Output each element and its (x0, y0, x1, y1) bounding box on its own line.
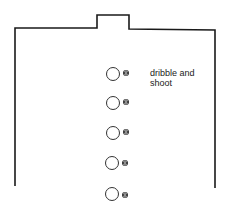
basketball-icon (123, 70, 129, 76)
court-diagram (0, 0, 227, 213)
player-circle (107, 68, 120, 81)
basketball-icon (123, 99, 129, 105)
court-outline (15, 15, 215, 188)
player-circle (107, 127, 120, 140)
player-circle (107, 97, 120, 110)
player-circle (106, 188, 119, 201)
basketball-icon (122, 160, 128, 166)
drill-annotation: dribble and shoot (150, 68, 195, 88)
player-1 (107, 68, 130, 81)
basketball-icon (123, 129, 129, 135)
player-circle (106, 157, 119, 170)
player-3 (107, 127, 130, 140)
annotation-line-2: shoot (150, 78, 195, 88)
annotation-line-1: dribble and (150, 68, 195, 78)
player-5 (106, 188, 129, 201)
basketball-icon (122, 192, 128, 198)
player-4 (106, 157, 129, 170)
player-2 (107, 97, 130, 110)
